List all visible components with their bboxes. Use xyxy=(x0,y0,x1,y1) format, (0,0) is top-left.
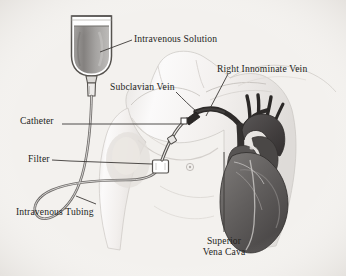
label-right-innominate-vein: Right Innominate Vein xyxy=(217,63,307,74)
label-intravenous-tubing: Intravenous Tubing xyxy=(16,206,94,217)
label-superior-vena-cava-line1: Superior xyxy=(186,235,262,246)
drip-chamber xyxy=(88,83,96,96)
inline-filter xyxy=(153,160,169,173)
label-intravenous-solution: Intravenous Solution xyxy=(134,33,217,44)
label-catheter: Catheter xyxy=(20,115,54,126)
label-subclavian-vein: Subclavian Vein xyxy=(110,81,175,92)
label-filter: Filter xyxy=(28,153,50,164)
label-superior-vena-cava-line2: Vena Cava xyxy=(186,246,262,257)
label-superior-vena-cava: Superior Vena Cava xyxy=(186,235,262,257)
